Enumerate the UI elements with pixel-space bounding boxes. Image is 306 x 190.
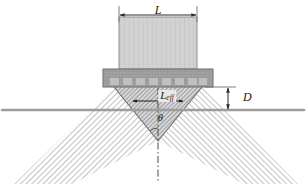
figure-canvas: L D Leff θ [0,0,306,190]
label-standoff-depth: D [243,91,252,103]
backing-block [119,17,197,69]
label-aperture-length: L [155,4,162,16]
label-effective-length-subscript: eff [166,93,174,102]
label-beam-angle: θ [158,113,163,123]
diagram-svg [0,0,306,190]
array-plate [103,69,213,87]
label-effective-length: Leff [158,90,176,102]
